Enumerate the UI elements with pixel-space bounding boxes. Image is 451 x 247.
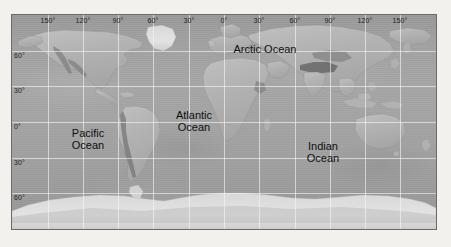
- landmass-siberia-northeast: [389, 28, 432, 45]
- lat-tick-label-0: 0°: [14, 123, 21, 130]
- landmass-central-america: [96, 89, 122, 106]
- lon-tick-label-150w: 150°: [41, 17, 56, 24]
- ocean-label-indian: Indian Ocean: [307, 141, 339, 164]
- landmass-new-zealand: [422, 139, 431, 152]
- landmass-japan: [390, 58, 400, 69]
- lat-tick-label-30s: 30°: [14, 159, 25, 166]
- landmass-scandinavia: [220, 24, 241, 38]
- landmass-greenland: [146, 25, 176, 51]
- landmass-caribbean: [119, 92, 135, 97]
- lon-tick-label-60w: 60°: [148, 17, 159, 24]
- lon-tick-label-0: 0°: [221, 17, 228, 24]
- lon-tick-label-90w: 90°: [113, 17, 124, 24]
- lon-tick-label-30e: 30°: [254, 17, 265, 24]
- landmass-india: [304, 72, 326, 97]
- landmass-north-america: [29, 30, 143, 89]
- world-map-figure: 150° 120° 90° 60° 30° 0° 30° 60° 90° 120…: [0, 0, 451, 247]
- lat-tick-label-60n: 60°: [14, 52, 25, 59]
- landmass-layer: [12, 15, 436, 229]
- landmass-southeast-asia: [339, 78, 356, 97]
- lon-tick-label-150e: 150°: [393, 17, 408, 24]
- lat-tick-label-30n: 30°: [14, 87, 25, 94]
- ocean-label-arctic: Arctic Ocean: [234, 44, 297, 56]
- map-frame[interactable]: 150° 120° 90° 60° 30° 0° 30° 60° 90° 120…: [11, 14, 437, 230]
- ocean-label-pacific: Pacific Ocean: [72, 128, 104, 151]
- landmass-australia: [355, 114, 406, 149]
- lon-tick-label-30w: 30°: [184, 17, 195, 24]
- lon-tick-label-90e: 90°: [325, 17, 336, 24]
- landmass-arabian-peninsula: [267, 61, 289, 79]
- landmass-africa: [203, 58, 269, 141]
- lon-tick-label-120e: 120°: [358, 17, 373, 24]
- landmass-philippines: [368, 81, 377, 92]
- lat-tick-label-60s: 60°: [14, 194, 25, 201]
- landmass-tasmania: [393, 151, 399, 156]
- lon-tick-label-60e: 60°: [290, 17, 301, 24]
- landmass-kamchatka: [403, 42, 411, 55]
- lon-tick-label-120w: 120°: [76, 17, 91, 24]
- ocean-label-atlantic: Atlantic Ocean: [176, 110, 212, 133]
- landmass-madagascar: [264, 118, 271, 132]
- landmass-new-guinea: [380, 101, 404, 109]
